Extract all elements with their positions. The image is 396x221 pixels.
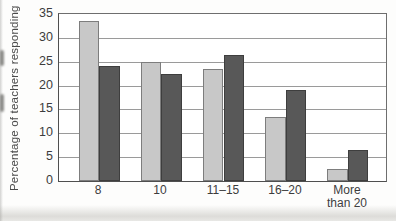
bar-light-gray-series-8: [79, 21, 100, 181]
scan-smudge: [0, 94, 4, 112]
y-tick-label-35: 35: [20, 6, 53, 20]
scan-smudge: [0, 50, 4, 66]
x-tick-label-16–20: 16–20: [250, 184, 320, 197]
x-tick-label-line: 16–20: [250, 184, 320, 197]
bar-light-gray-series-More-than-20: [327, 169, 348, 181]
y-tick-label-10: 10: [20, 125, 53, 139]
y-tick-label-20: 20: [20, 78, 53, 92]
bar-light-gray-series-10: [141, 62, 162, 181]
x-tick-label-8: 8: [63, 184, 133, 197]
bar-light-gray-series-16–20: [265, 117, 286, 181]
bar-dark-gray-series-16–20: [286, 90, 307, 181]
y-tick-label-5: 5: [20, 149, 53, 163]
bar-dark-gray-series-More-than-20: [348, 150, 369, 181]
y-tick-label-15: 15: [20, 101, 53, 115]
y-tick-label-30: 30: [20, 30, 53, 44]
bar-chart-figure: Percentage of teachers responding 051015…: [0, 0, 396, 221]
y-tick-label-25: 25: [20, 54, 53, 68]
x-tick-label-line: than 20: [312, 197, 382, 210]
bar-dark-gray-series-10: [161, 74, 182, 181]
x-tick-label-10: 10: [125, 184, 195, 197]
x-tick-label-line: 11–15: [188, 184, 258, 197]
y-tick-label-0: 0: [20, 173, 53, 187]
bar-dark-gray-series-8: [99, 66, 120, 181]
x-tick-label-11–15: 11–15: [188, 184, 258, 197]
x-tick-label-line: 10: [125, 184, 195, 197]
x-tick-label-More-than-20: Morethan 20: [312, 184, 382, 210]
gridline-y-30: [59, 38, 386, 39]
bar-light-gray-series-11–15: [203, 69, 224, 181]
x-tick-label-line: 8: [63, 184, 133, 197]
gridline-y-25: [59, 62, 386, 63]
plot-area: [58, 13, 387, 182]
bar-dark-gray-series-11–15: [224, 55, 245, 181]
